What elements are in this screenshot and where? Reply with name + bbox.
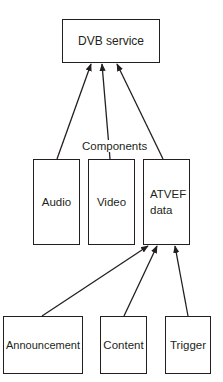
dvb-service-box: DVB service (62, 19, 160, 63)
audio-label: Audio (42, 196, 71, 209)
video-box: Video (88, 159, 135, 245)
announcement-box: Announcement (3, 316, 83, 374)
arrow-trigger-to-atvef (175, 246, 188, 316)
audio-box: Audio (33, 159, 80, 245)
atvef-data-box: ATVEF data (143, 159, 190, 245)
trigger-box: Trigger (165, 316, 211, 374)
content-box: Content (100, 316, 147, 374)
content-label: Content (103, 339, 143, 352)
components-label: Components (80, 140, 149, 152)
announcement-label: Announcement (6, 339, 80, 352)
arrow-announcement-to-atvef (42, 246, 148, 316)
arrow-content-to-atvef (124, 246, 157, 316)
atvef-label-line2: data (150, 204, 172, 217)
dvb-service-label: DVB service (78, 35, 144, 48)
trigger-label: Trigger (170, 339, 206, 352)
video-label: Video (97, 196, 126, 209)
atvef-label-line1: ATVEF (150, 188, 186, 201)
